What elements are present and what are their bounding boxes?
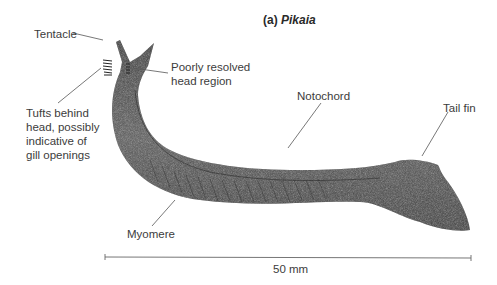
title-prefix: (a) bbox=[263, 13, 278, 27]
label-tufts-line: gill openings bbox=[26, 148, 100, 162]
label-head-region: Poorly resolved head region bbox=[171, 60, 250, 88]
label-tentacle: Tentacle bbox=[34, 27, 77, 41]
animal-body bbox=[103, 40, 470, 231]
label-tufts: Tufts behind head, possibly indicative o… bbox=[26, 106, 100, 162]
scale-bar bbox=[105, 254, 471, 261]
label-tufts-line: head, possibly bbox=[26, 120, 100, 134]
label-head-line: head region bbox=[171, 74, 250, 88]
label-tail-fin: Tail fin bbox=[443, 101, 476, 115]
label-notochord: Notochord bbox=[297, 89, 350, 103]
label-head-line: Poorly resolved bbox=[171, 60, 250, 74]
title-taxon: Pikaia bbox=[281, 13, 316, 27]
label-tufts-line: indicative of bbox=[26, 134, 100, 148]
label-tufts-line: Tufts behind bbox=[26, 106, 100, 120]
label-myomere: Myomere bbox=[127, 227, 175, 241]
figure-title: (a) Pikaia bbox=[263, 13, 316, 27]
scale-bar-label: 50 mm bbox=[273, 262, 308, 276]
